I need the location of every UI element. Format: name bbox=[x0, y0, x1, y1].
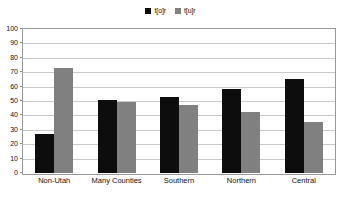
y-tick-label: 40 bbox=[10, 111, 18, 118]
x-axis: Non-UtahMany CountiesSouthernNorthernCen… bbox=[23, 176, 334, 192]
x-tick-label: Many Counties bbox=[92, 176, 142, 186]
bar-0 bbox=[285, 79, 304, 173]
y-tick-label: 100 bbox=[6, 25, 18, 32]
y-tick-label: 20 bbox=[10, 140, 18, 147]
gridline bbox=[23, 173, 335, 174]
bar-0 bbox=[35, 134, 54, 173]
gray-square-swatch bbox=[175, 8, 181, 14]
bar-1 bbox=[54, 68, 73, 173]
legend-entry-1: t[u]r bbox=[175, 7, 196, 15]
legend-entry-0: t[o]r bbox=[145, 7, 166, 15]
chart-legend: t[o]r t[u]r bbox=[0, 4, 341, 18]
bar-0 bbox=[222, 89, 241, 173]
y-axis: 1009080706050403020100 bbox=[0, 28, 20, 173]
y-tick-label: 70 bbox=[10, 68, 18, 75]
y-tick-label: 30 bbox=[10, 125, 18, 132]
bar-group bbox=[222, 29, 260, 173]
bar-group bbox=[98, 29, 136, 173]
x-tick-label: Central bbox=[292, 176, 316, 186]
bar-1 bbox=[117, 102, 136, 173]
bar-0 bbox=[160, 97, 179, 173]
x-tick-label: Northern bbox=[227, 176, 256, 186]
bar-chart: t[o]r t[u]r 1009080706050403020100 Non-U… bbox=[0, 0, 341, 198]
y-tick-label: 90 bbox=[10, 39, 18, 46]
bar-1 bbox=[304, 122, 323, 173]
black-square-swatch bbox=[145, 8, 151, 14]
legend-label-1: t[u]r bbox=[184, 7, 196, 15]
bar-group bbox=[35, 29, 73, 173]
bar-1 bbox=[241, 112, 260, 173]
y-tick-label: 0 bbox=[14, 169, 18, 176]
y-tick-label: 80 bbox=[10, 53, 18, 60]
bars-layer bbox=[23, 29, 334, 173]
legend-label-0: t[o]r bbox=[154, 7, 166, 15]
x-tick-label: Non-Utah bbox=[38, 176, 70, 186]
bar-1 bbox=[179, 105, 198, 173]
bar-group bbox=[285, 29, 323, 173]
y-tick-label: 10 bbox=[10, 154, 18, 161]
bar-0 bbox=[98, 100, 117, 173]
y-tick-label: 60 bbox=[10, 82, 18, 89]
x-tick-label: Southern bbox=[164, 176, 194, 186]
bar-group bbox=[160, 29, 198, 173]
y-tick-label: 50 bbox=[10, 97, 18, 104]
